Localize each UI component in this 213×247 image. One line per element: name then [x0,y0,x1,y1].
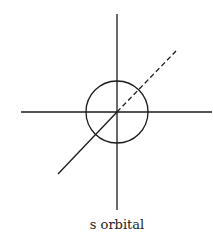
s-orbital-diagram [0,0,213,247]
diagram-caption: s orbital [0,217,213,232]
